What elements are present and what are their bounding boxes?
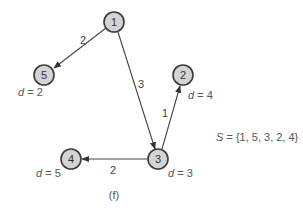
node-label: 2 bbox=[180, 69, 186, 81]
distance-label-node-5: d = 2 bbox=[18, 86, 43, 98]
node-label: 5 bbox=[41, 69, 47, 81]
edge-weight-3-2: 1 bbox=[162, 107, 168, 119]
graph-canvas: 2 3 1 2 1 5 2 3 4 d = 2 d = 4 d = 3 d = … bbox=[0, 0, 303, 211]
node-label: 3 bbox=[155, 153, 161, 165]
node-label: 1 bbox=[111, 16, 117, 28]
edge-1-to-3 bbox=[118, 32, 155, 149]
figure-caption: (f) bbox=[109, 189, 119, 201]
edge-weight-3-4: 2 bbox=[110, 164, 116, 176]
edge-weight-1-3: 3 bbox=[138, 78, 144, 90]
node-1: 1 bbox=[104, 12, 124, 32]
node-3: 3 bbox=[148, 149, 168, 169]
node-label: 4 bbox=[68, 153, 74, 165]
node-4: 4 bbox=[61, 149, 81, 169]
node-2: 2 bbox=[173, 65, 193, 85]
distance-label-node-2: d = 4 bbox=[188, 89, 213, 101]
visited-set-label: S = {1, 5, 3, 2, 4} bbox=[216, 131, 299, 143]
edge-weight-1-5: 2 bbox=[80, 34, 86, 46]
node-5: 5 bbox=[34, 65, 54, 85]
distance-label-node-4: d = 5 bbox=[36, 167, 61, 179]
distance-label-node-3: d = 3 bbox=[168, 167, 193, 179]
